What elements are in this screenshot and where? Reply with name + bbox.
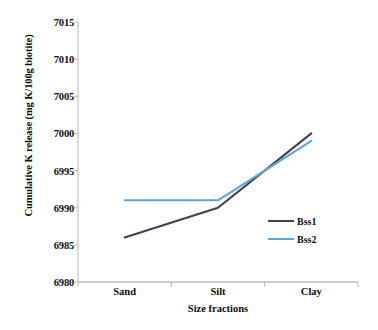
y-tick-label: 7000 bbox=[30, 128, 74, 139]
y-tick-label: 7005 bbox=[30, 91, 74, 102]
legend-item: Bss2 bbox=[268, 230, 354, 248]
y-tick-label: 6995 bbox=[30, 165, 74, 176]
y-tick-label: 7010 bbox=[30, 54, 74, 65]
legend-swatch-bss1 bbox=[268, 220, 294, 223]
x-tick-label: Silt bbox=[183, 286, 253, 297]
x-axis-title: Size fractions bbox=[78, 303, 358, 314]
y-tick-label: 6985 bbox=[30, 239, 74, 250]
series-line-bss2 bbox=[125, 141, 312, 200]
legend-label: Bss2 bbox=[297, 234, 316, 245]
y-tick-label: 6990 bbox=[30, 202, 74, 213]
chart-legend: Bss1Bss2 bbox=[268, 212, 354, 248]
legend-swatch-bss2 bbox=[268, 238, 294, 241]
x-axis-tick-labels: SandSiltClay bbox=[78, 286, 358, 302]
chart-figure: Cumulative K release (mg K/100g biotite)… bbox=[0, 0, 378, 330]
y-tick-label: 6980 bbox=[30, 277, 74, 288]
y-axis-tick-labels: 69806985699069957000700570107015 bbox=[30, 18, 74, 286]
y-tick-label: 7015 bbox=[30, 17, 74, 28]
x-tick-label: Clay bbox=[276, 286, 346, 297]
legend-label: Bss1 bbox=[297, 216, 316, 227]
x-tick-label: Sand bbox=[90, 286, 160, 297]
legend-item: Bss1 bbox=[268, 212, 354, 230]
